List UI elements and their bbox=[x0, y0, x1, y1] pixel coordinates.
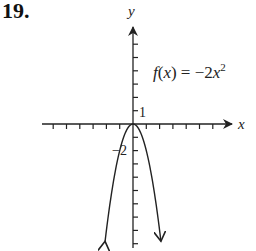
y-tick-label-1: 1 bbox=[139, 105, 146, 120]
x-axis-label: x bbox=[237, 116, 245, 132]
graph: x y 1 −2 f(x) = −2x2 bbox=[0, 0, 256, 251]
y-tick-label-neg2: −2 bbox=[112, 143, 127, 158]
y-axis bbox=[133, 27, 138, 248]
y-axis-label: y bbox=[126, 3, 135, 19]
function-label: f(x) = −2x2 bbox=[153, 61, 226, 82]
